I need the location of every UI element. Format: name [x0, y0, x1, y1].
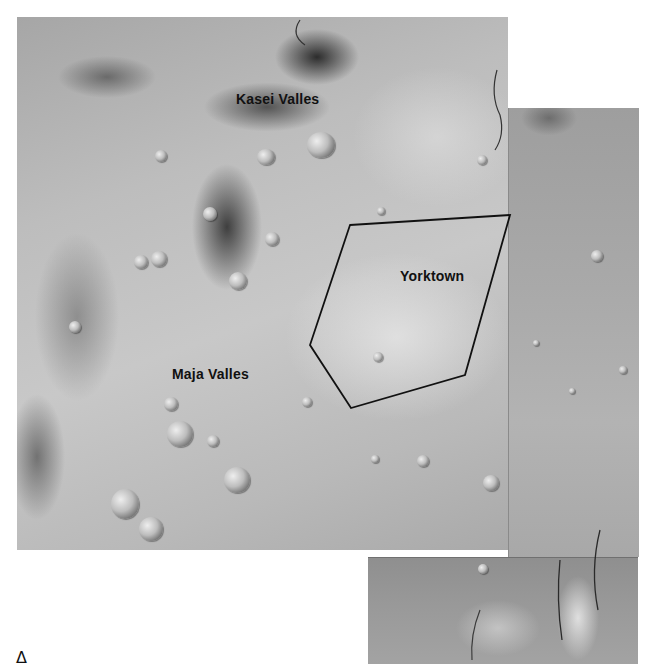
crater — [155, 150, 167, 162]
crater — [207, 435, 219, 447]
crater — [377, 207, 385, 215]
delta-mark: Δ — [16, 650, 27, 666]
label-maja-valles: Maja Valles — [172, 366, 249, 382]
crater — [373, 352, 383, 362]
crater — [139, 517, 163, 541]
mosaic-panel-right — [508, 108, 639, 557]
crater — [483, 475, 499, 491]
crater — [371, 455, 379, 463]
crater — [229, 272, 247, 290]
crater — [69, 321, 81, 333]
crater — [257, 149, 275, 165]
crater — [619, 366, 627, 374]
crater — [134, 255, 148, 269]
crater — [569, 388, 575, 394]
crater — [167, 421, 193, 447]
crater — [203, 207, 217, 221]
crater — [307, 132, 335, 158]
mosaic-panel-bottom — [368, 557, 638, 664]
crater — [224, 467, 250, 493]
label-kasei-valles: Kasei Valles — [236, 91, 319, 107]
label-yorktown: Yorktown — [400, 268, 464, 284]
crater — [164, 397, 178, 411]
crater — [151, 251, 167, 267]
crater — [533, 340, 539, 346]
crater — [111, 489, 139, 519]
crater — [477, 155, 487, 165]
crater — [265, 232, 279, 246]
crater — [417, 455, 429, 467]
crater — [591, 250, 603, 262]
crater — [302, 397, 312, 407]
crater — [478, 564, 488, 574]
